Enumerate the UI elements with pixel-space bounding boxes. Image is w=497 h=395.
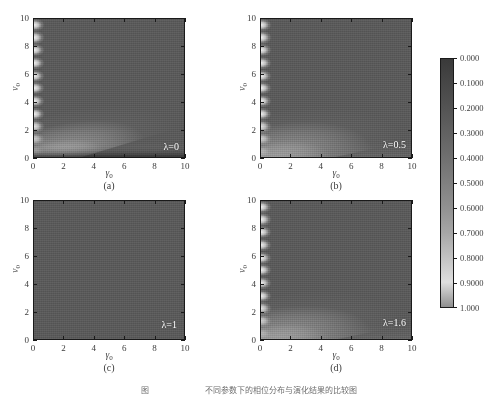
y-tick-left bbox=[33, 200, 37, 201]
x-tick-label: 0 bbox=[31, 343, 36, 353]
x-axis-label-b: γ0 bbox=[332, 168, 339, 180]
x-tick-label: 0 bbox=[31, 161, 36, 171]
raster-grain-a bbox=[34, 19, 184, 157]
x-tick-label: 6 bbox=[122, 343, 127, 353]
colorbar-gradient bbox=[440, 58, 454, 308]
y-tick-label: 10 bbox=[234, 13, 256, 23]
x-tick-top bbox=[351, 18, 352, 22]
x-tick-label: 10 bbox=[181, 161, 190, 171]
y-tick-label: 2 bbox=[7, 125, 29, 135]
y-axis-label-text-c: v bbox=[10, 269, 20, 273]
x-tick-bottom bbox=[185, 336, 186, 340]
colorbar-tick-label: 0.000 bbox=[460, 53, 479, 63]
x-tick-top bbox=[290, 18, 291, 22]
heatmap-field-b bbox=[261, 19, 411, 157]
raster-grain-b bbox=[261, 19, 411, 157]
x-tick-top bbox=[382, 18, 383, 22]
y-tick-right bbox=[181, 74, 185, 75]
x-tick-label: 6 bbox=[349, 343, 354, 353]
colorbar-tick bbox=[454, 258, 457, 259]
x-tick-top bbox=[155, 18, 156, 22]
x-axis-label-sub-b: 0 bbox=[336, 172, 340, 180]
x-axis-label-c: γ0 bbox=[105, 350, 112, 362]
colorbar-tick-label: 0.3000 bbox=[460, 128, 483, 138]
y-tick-left bbox=[33, 74, 37, 75]
y-tick-left bbox=[260, 46, 264, 47]
y-tick-label: 2 bbox=[234, 125, 256, 135]
x-tick-top bbox=[63, 200, 64, 204]
x-tick-label: 8 bbox=[152, 343, 157, 353]
y-tick-label: 10 bbox=[7, 195, 29, 205]
x-tick-top bbox=[185, 200, 186, 204]
y-tick-left bbox=[260, 340, 264, 341]
x-tick-top bbox=[94, 18, 95, 22]
panel-b: λ=0.5 bbox=[260, 18, 412, 158]
x-tick-top bbox=[351, 200, 352, 204]
panel-d: λ=1.6 bbox=[260, 200, 412, 340]
x-tick-label: 4 bbox=[319, 161, 324, 171]
x-tick-label: 6 bbox=[122, 161, 127, 171]
x-tick-label: 0 bbox=[258, 161, 263, 171]
x-tick-label: 8 bbox=[379, 161, 384, 171]
x-tick-label: 8 bbox=[152, 161, 157, 171]
y-tick-right bbox=[181, 340, 185, 341]
y-tick-left bbox=[260, 102, 264, 103]
y-tick-left bbox=[33, 102, 37, 103]
x-tick-bottom bbox=[412, 336, 413, 340]
y-tick-left bbox=[260, 158, 264, 159]
x-tick-bottom bbox=[124, 154, 125, 158]
y-axis-label-sub-d: 0 bbox=[241, 265, 249, 269]
y-tick-label: 0 bbox=[234, 153, 256, 163]
colorbar-tick-label: 1.000 bbox=[460, 303, 479, 313]
y-axis-label-text-a: v bbox=[10, 87, 20, 91]
x-axis-label-d: γ0 bbox=[332, 350, 339, 362]
y-tick-right bbox=[181, 130, 185, 131]
y-tick-left bbox=[33, 284, 37, 285]
y-tick-right bbox=[408, 228, 412, 229]
y-axis-label-sub-a: 0 bbox=[14, 83, 22, 87]
x-tick-label: 0 bbox=[258, 343, 263, 353]
y-tick-left bbox=[260, 256, 264, 257]
figure-caption: 图 不同参数下的相位分布与演化结果的比较图 bbox=[0, 386, 497, 395]
x-tick-top bbox=[321, 18, 322, 22]
x-tick-bottom bbox=[351, 154, 352, 158]
colorbar-tick bbox=[454, 183, 457, 184]
x-axis-label-sub-d: 0 bbox=[336, 354, 340, 362]
y-tick-left bbox=[33, 312, 37, 313]
colorbar[interactable] bbox=[440, 58, 454, 308]
figure-root: λ=0 02468100246810 v0 γ0 (a) λ=0.5 02468… bbox=[0, 0, 497, 395]
heatmap-field-a bbox=[34, 19, 184, 157]
lambda-annotation-b: λ=0.5 bbox=[383, 139, 406, 150]
x-tick-label: 4 bbox=[319, 343, 324, 353]
x-tick-label: 2 bbox=[61, 343, 66, 353]
y-tick-right bbox=[181, 312, 185, 313]
colorbar-tick bbox=[454, 208, 457, 209]
y-tick-left bbox=[260, 228, 264, 229]
x-tick-bottom bbox=[382, 336, 383, 340]
x-tick-top bbox=[412, 200, 413, 204]
colorbar-tick bbox=[454, 108, 457, 109]
x-tick-top bbox=[412, 18, 413, 22]
colorbar-tick bbox=[454, 58, 457, 59]
x-tick-bottom bbox=[290, 154, 291, 158]
y-tick-left bbox=[33, 256, 37, 257]
x-tick-top bbox=[382, 200, 383, 204]
panel-letter-c: (c) bbox=[103, 362, 114, 373]
y-tick-left bbox=[260, 284, 264, 285]
colorbar-tick-label: 0.5000 bbox=[460, 178, 483, 188]
x-tick-top bbox=[124, 18, 125, 22]
lambda-annotation-d: λ=1.6 bbox=[383, 317, 406, 328]
x-tick-label: 10 bbox=[408, 343, 417, 353]
y-tick-right bbox=[408, 340, 412, 341]
lambda-annotation-c: λ=1 bbox=[162, 319, 178, 330]
y-tick-right bbox=[408, 18, 412, 19]
x-tick-bottom bbox=[412, 154, 413, 158]
x-axis-label-sub-c: 0 bbox=[109, 354, 113, 362]
x-tick-label: 4 bbox=[92, 343, 97, 353]
colorbar-tick bbox=[454, 158, 457, 159]
x-axis-label-sub-a: 0 bbox=[109, 172, 113, 180]
y-tick-right bbox=[181, 284, 185, 285]
y-axis-label-text-b: v bbox=[237, 87, 247, 91]
x-tick-bottom bbox=[351, 336, 352, 340]
x-tick-bottom bbox=[321, 154, 322, 158]
